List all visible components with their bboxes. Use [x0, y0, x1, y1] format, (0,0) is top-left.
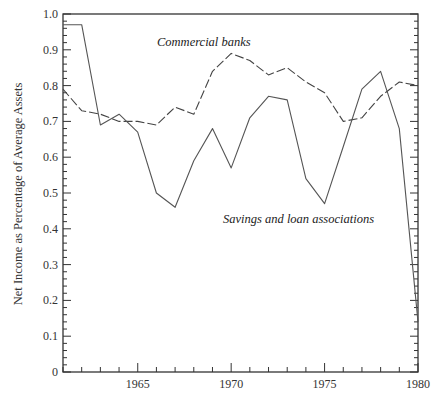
y-tick-label: 1.0 [43, 7, 58, 21]
x-tick-label: 1965 [126, 377, 150, 391]
y-tick-label: 0.1 [43, 329, 58, 343]
y-tick-label: 0.3 [43, 258, 58, 272]
x-tick-label: 1970 [219, 377, 243, 391]
series-line-commercial-banks [63, 53, 418, 125]
x-tick-label: 1975 [313, 377, 337, 391]
series-line-savings-and-loan-associations [63, 25, 418, 322]
x-tick-label: 1980 [406, 377, 430, 391]
y-tick-label: 0.9 [43, 43, 58, 57]
y-tick-label: 0.2 [43, 293, 58, 307]
series-lines [63, 25, 418, 322]
annotation-commercial-banks: Commercial banks [157, 35, 251, 49]
y-tick-label: 0.4 [43, 222, 58, 236]
y-axis-title: Net Income as Percentage of Average Asse… [11, 83, 25, 306]
axes [63, 14, 418, 372]
tick-labels: 00.10.20.30.40.50.60.70.80.91.0196519701… [43, 7, 430, 391]
y-tick-label: 0.6 [43, 150, 58, 164]
y-tick-label: 0.5 [43, 186, 58, 200]
y-tick-label: 0 [52, 365, 58, 379]
y-tick-label: 0.8 [43, 79, 58, 93]
ticks [63, 14, 418, 372]
plot-frame [63, 14, 418, 372]
annotation-savings-and-loan: Savings and loan associations [223, 212, 374, 226]
line-chart: 00.10.20.30.40.50.60.70.80.91.0196519701… [0, 0, 437, 397]
y-tick-label: 0.7 [43, 114, 58, 128]
